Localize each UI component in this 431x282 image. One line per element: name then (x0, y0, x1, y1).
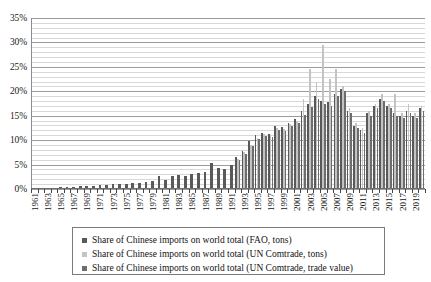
chart-legend: Share of Chinese imports on world total … (72, 227, 385, 275)
x-axis-tick-label: 1993 (240, 193, 250, 211)
bar-group (103, 18, 110, 189)
x-axis-tick-label: 1985 (187, 193, 197, 211)
x-axis-tick-label: 1983 (174, 193, 184, 211)
y-axis-tick-label: 0% (15, 184, 27, 194)
x-axis-tick-label: 1961 (30, 193, 40, 211)
legend-item-label: Share of Chinese imports on world total … (92, 263, 353, 273)
y-axis-line (31, 18, 32, 189)
x-axis-tick-label: 2015 (384, 193, 394, 211)
bar (423, 111, 425, 189)
x-axis-tick-label: 1981 (161, 193, 171, 211)
x-axis-tick-label: 1975 (122, 193, 132, 211)
bar (190, 174, 193, 189)
x-axis-tick-label: 1997 (266, 193, 276, 211)
legend-swatch-icon (82, 266, 87, 271)
legend-swatch-icon (82, 238, 87, 243)
legend-item: Share of Chinese imports on world total … (82, 261, 384, 275)
x-axis-labels: 1961196319651967196919711973197519771979… (31, 193, 425, 225)
y-axis-tick-label: 25% (10, 62, 27, 72)
x-axis-tick-label: 1999 (279, 193, 289, 211)
bar (197, 173, 200, 189)
y-axis-tick-label: 30% (10, 37, 27, 47)
bar (217, 168, 220, 189)
x-axis-tick-label: 1977 (135, 193, 145, 211)
bar-group (51, 18, 58, 189)
x-axis-tick-label: 2001 (292, 193, 302, 211)
x-axis-tick-label: 2009 (345, 193, 355, 211)
bar-group (300, 18, 307, 189)
x-axis-tick-label: 1971 (95, 193, 105, 211)
x-axis-tick-label: 2011 (358, 193, 368, 211)
bar-group (175, 18, 182, 189)
legend-item: Share of Chinese imports on world total … (82, 247, 384, 261)
bar-group (274, 18, 281, 189)
bar-group (149, 18, 156, 189)
x-axis-tick-label: 1987 (201, 193, 211, 211)
x-axis-tick-label: 1979 (148, 193, 158, 211)
plot-area (31, 18, 425, 189)
y-axis-labels: 0%5%10%15%20%25%30%35% (0, 0, 31, 189)
bar (177, 175, 180, 189)
bar-group (221, 18, 228, 189)
bar-group (248, 18, 255, 189)
bar-group (202, 18, 209, 189)
legend-item-label: Share of Chinese imports on world total … (92, 235, 292, 245)
bar-group (418, 18, 425, 189)
bar-group (399, 18, 406, 189)
bar-group (320, 18, 327, 189)
y-axis-tick-label: 15% (10, 111, 27, 121)
bar (230, 165, 233, 189)
bar-group (372, 18, 379, 189)
x-axis-tick-label: 1973 (109, 193, 119, 211)
x-axis-tick-label: 2007 (332, 193, 342, 211)
y-axis-tick-label: 35% (10, 13, 27, 23)
legend-item: Share of Chinese imports on world total … (82, 233, 384, 247)
x-axis-tick-label: 2019 (411, 193, 421, 211)
bar-groups (31, 18, 425, 189)
bar (204, 172, 207, 189)
bar-group (77, 18, 84, 189)
chart-container: 0%5%10%15%20%25%30%35% 19611963196519671… (0, 0, 431, 282)
x-axis-tick-label: 2017 (398, 193, 408, 211)
x-axis-tick-label: 2005 (319, 193, 329, 211)
bar (223, 169, 226, 189)
y-axis-tick-label: 20% (10, 86, 27, 96)
x-axis-tick-label: 1967 (69, 193, 79, 211)
y-axis-tick-label: 10% (10, 135, 27, 145)
x-axis-tick-label: 1989 (214, 193, 224, 211)
x-axis-tick-label: 2003 (306, 193, 316, 211)
legend-swatch-icon (82, 252, 87, 257)
x-axis-tick-label: 2013 (371, 193, 381, 211)
y-axis-tick-label: 5% (15, 160, 27, 170)
x-axis-tick (425, 189, 426, 193)
x-axis-tick-label: 1965 (56, 193, 66, 211)
x-axis-tick-label: 1991 (227, 193, 237, 211)
x-axis-tick-label: 1963 (43, 193, 53, 211)
legend-item-label: Share of Chinese imports on world total … (92, 249, 327, 259)
bar-group (123, 18, 130, 189)
x-axis-tick-label: 1995 (253, 193, 263, 211)
bar-group (346, 18, 353, 189)
bar (210, 163, 213, 189)
x-axis-tick-label: 1969 (82, 193, 92, 211)
